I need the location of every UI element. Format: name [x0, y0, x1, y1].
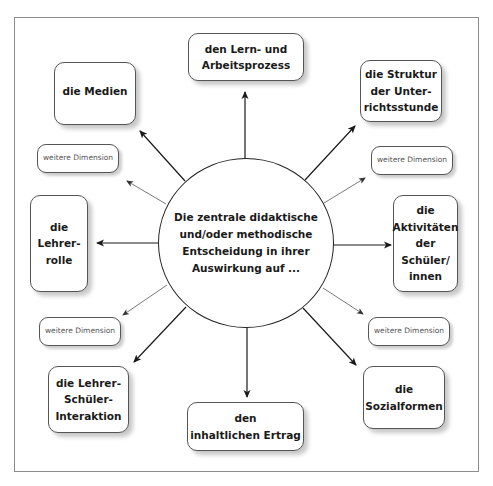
arrow-to-lehrer-schueler: [134, 307, 186, 362]
arrow-to-dim-top-right: [324, 178, 365, 203]
node-label: die Medien: [62, 83, 127, 100]
node-label: die Struktur der Unter- richtsstunde: [364, 66, 439, 116]
extra-dimension-top-left: weitere Dimension: [37, 144, 119, 173]
arrow-to-struktur: [305, 126, 355, 180]
node-lern-arbeitsprozess: den Lern- und Arbeitsprozess: [188, 33, 304, 81]
arrow-to-dim-bottom-right: [323, 288, 363, 314]
extra-dimension-label: weitere Dimension: [43, 150, 113, 167]
node-label: die Lehrer- Schüler- Interaktion: [55, 375, 121, 425]
node-aktivitaeten: die Aktivitäten der Schüler/ innen: [393, 195, 458, 292]
arrow-to-dim-bottom-left: [123, 285, 167, 315]
extra-dimension-top-right: weitere Dimension: [371, 146, 453, 175]
extra-dimension-bottom-left: weitere Dimension: [39, 317, 121, 346]
node-struktur: die Struktur der Unter- richtsstunde: [360, 60, 442, 122]
node-label: die Sozialformen: [365, 381, 443, 414]
node-label: die Lehrer- rolle: [37, 219, 80, 269]
extra-dimension-label: weitere Dimension: [374, 323, 444, 340]
node-lehrer-schueler-interaktion: die Lehrer- Schüler- Interaktion: [48, 366, 129, 433]
extra-dimension-label: weitere Dimension: [45, 323, 115, 340]
arrow-to-sozialformen: [303, 308, 356, 365]
extra-dimension-bottom-right: weitere Dimension: [368, 317, 450, 346]
node-label: den inhaltlichen Ertrag: [190, 410, 301, 443]
central-decision-text: Die zentrale didaktische und/oder method…: [174, 209, 318, 277]
extra-dimension-label: weitere Dimension: [377, 152, 447, 169]
arrow-to-dim-top-left: [127, 181, 166, 204]
node-label: die Aktivitäten der Schüler/ innen: [393, 202, 459, 285]
node-inhaltlicher-ertrag: den inhaltlichen Ertrag: [187, 402, 304, 451]
node-medien: die Medien: [54, 62, 136, 125]
node-lehrerrolle: die Lehrer- rolle: [30, 195, 88, 292]
node-label: den Lern- und Arbeitsprozess: [202, 41, 290, 74]
node-sozialformen: die Sozialformen: [363, 366, 445, 429]
central-decision-circle: Die zentrale didaktische und/oder method…: [158, 158, 334, 328]
arrow-to-medien: [140, 131, 185, 181]
